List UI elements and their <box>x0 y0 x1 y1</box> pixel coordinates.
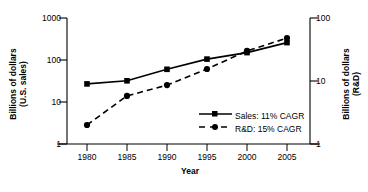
data-point-r-d-1980 <box>84 122 90 128</box>
plot-area <box>0 0 368 192</box>
data-point-sales-1980 <box>84 81 90 87</box>
data-point-r-d-2000 <box>244 48 250 54</box>
data-point-r-d-2005 <box>284 35 290 41</box>
x-axis-ticks <box>87 144 287 151</box>
legend-key-sales <box>199 111 232 117</box>
data-point-r-d-1990 <box>164 82 170 88</box>
data-point-r-d-1995 <box>204 66 210 72</box>
y-axis-left-ticks <box>59 18 67 144</box>
data-point-r-d-1985 <box>124 93 130 99</box>
data-point-sales-1990 <box>164 67 170 73</box>
data-point-sales-1985 <box>124 78 130 84</box>
data-point-sales-1995 <box>204 56 210 62</box>
legend-key-rd <box>199 124 232 130</box>
y-axis-right-ticks <box>310 18 318 144</box>
chart-container: Billions of dollars (U.S. sales) Billion… <box>0 0 368 192</box>
